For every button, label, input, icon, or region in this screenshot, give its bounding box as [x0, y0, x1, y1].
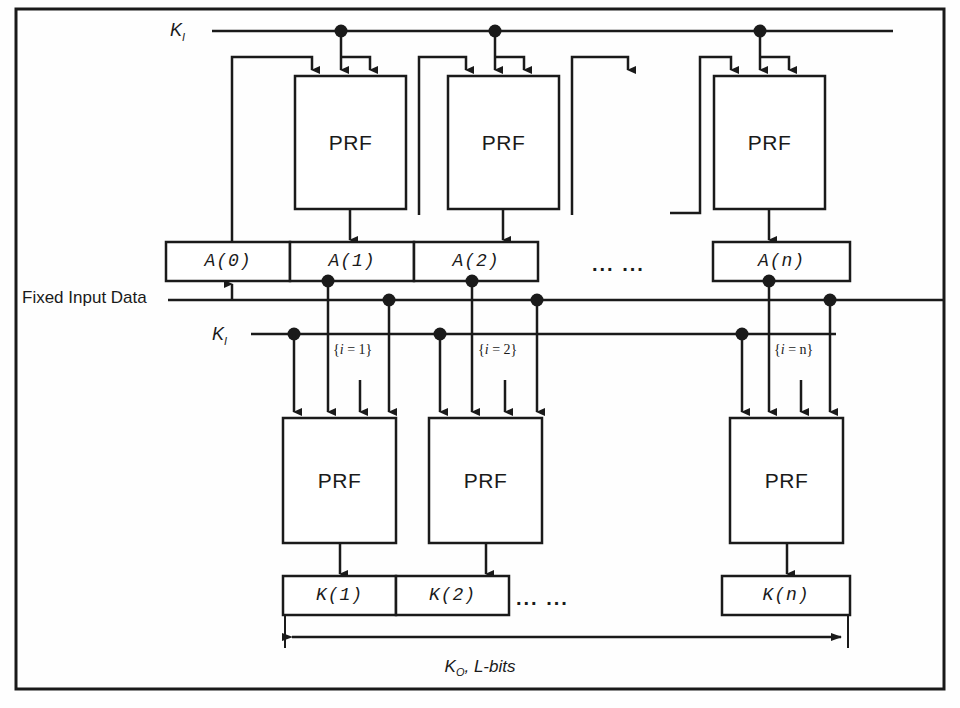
reg-label-a1: A(1) [290, 251, 414, 271]
reg-label-k1: K(1) [283, 585, 396, 605]
prf-label-k1: PRF [283, 469, 396, 493]
prf-label-kn: PRF [730, 469, 843, 493]
index-i-n: {i = n} [774, 342, 813, 358]
fixed-input-data-label: Fixed Input Data [22, 288, 147, 308]
reg-label-a0: A(0) [166, 251, 290, 271]
prf-label-a2: PRF [448, 131, 559, 155]
key-branch-2 [495, 57, 524, 70]
prf-label-a1: PRF [295, 131, 406, 155]
index-i-2: {i = 2} [478, 342, 517, 358]
reg-label-kn: K(n) [722, 585, 850, 605]
reg-label-an: A(n) [713, 251, 850, 271]
index-i-1: {i = 1} [333, 342, 372, 358]
ellipsis-k-row: ... ... [516, 587, 569, 610]
key-branch-n [760, 57, 789, 70]
prf-label-an: PRF [714, 131, 825, 155]
prf-label-k2: PRF [429, 469, 542, 493]
figure-canvas: KI PRF PRF PRF A(0) A(1) A(2) A(n) ... .… [0, 0, 960, 708]
output-key-span-label: KO, L-bits [0, 657, 960, 678]
reg-label-a2: A(2) [414, 251, 538, 271]
key-input-lower-label: KI [212, 324, 227, 347]
feedback-a2-to-next [572, 57, 628, 215]
key-input-top-label: KI [170, 20, 185, 43]
ellipsis-a-row: ... ... [592, 253, 645, 276]
reg-label-k2: K(2) [396, 585, 509, 605]
key-branch-1 [341, 57, 370, 70]
